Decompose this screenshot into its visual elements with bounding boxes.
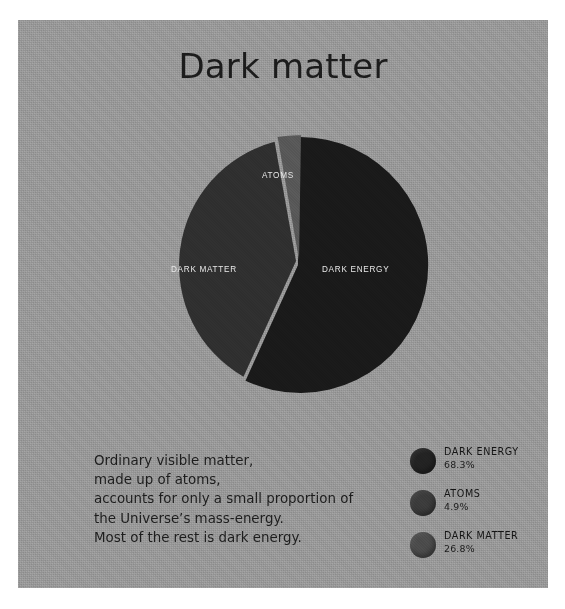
legend: DARK ENERGY 68.3% ATOMS 4.9% DARK MATTER… bbox=[410, 445, 548, 571]
caption-line-1: Ordinary visible matter, bbox=[94, 451, 394, 470]
page-title: Dark matter bbox=[18, 46, 548, 86]
pie-slice-label-atoms: ATOMS bbox=[262, 171, 294, 180]
caption-line-3: accounts for only a small proportion of bbox=[94, 489, 394, 508]
legend-item-atoms[interactable]: ATOMS 4.9% bbox=[410, 487, 548, 525]
pie-slice-label-dark-matter: DARK MATTER bbox=[171, 265, 237, 274]
caption-text: Ordinary visible matter, made up of atom… bbox=[94, 451, 394, 547]
legend-swatch-atoms bbox=[410, 490, 436, 516]
legend-item-dark-energy[interactable]: DARK ENERGY 68.3% bbox=[410, 445, 548, 483]
pie-slice-label-dark-energy: DARK ENERGY bbox=[322, 265, 389, 274]
legend-swatch-dark-matter bbox=[410, 532, 436, 558]
legend-label-dark-energy: DARK ENERGY bbox=[444, 445, 519, 458]
caption-line-4: the Universe’s mass-energy. bbox=[94, 509, 394, 528]
legend-swatch-dark-energy bbox=[410, 448, 436, 474]
caption-line-2: made up of atoms, bbox=[94, 470, 394, 489]
legend-label-atoms: ATOMS bbox=[444, 487, 480, 500]
legend-value-dark-energy: 68.3% bbox=[444, 458, 519, 472]
legend-item-dark-matter[interactable]: DARK MATTER 26.8% bbox=[410, 529, 548, 567]
caption-line-5: Most of the rest is dark energy. bbox=[94, 528, 394, 547]
pie-chart-svg: ATOMS DARK MATTER DARK ENERGY bbox=[158, 125, 430, 397]
legend-label-dark-matter: DARK MATTER bbox=[444, 529, 518, 542]
legend-value-atoms: 4.9% bbox=[444, 500, 480, 514]
pie-chart: ATOMS DARK MATTER DARK ENERGY bbox=[158, 125, 430, 397]
legend-value-dark-matter: 26.8% bbox=[444, 542, 518, 556]
poster-panel: Dark matter ATOMS DARK MATTER DARK ENERG… bbox=[18, 20, 548, 588]
